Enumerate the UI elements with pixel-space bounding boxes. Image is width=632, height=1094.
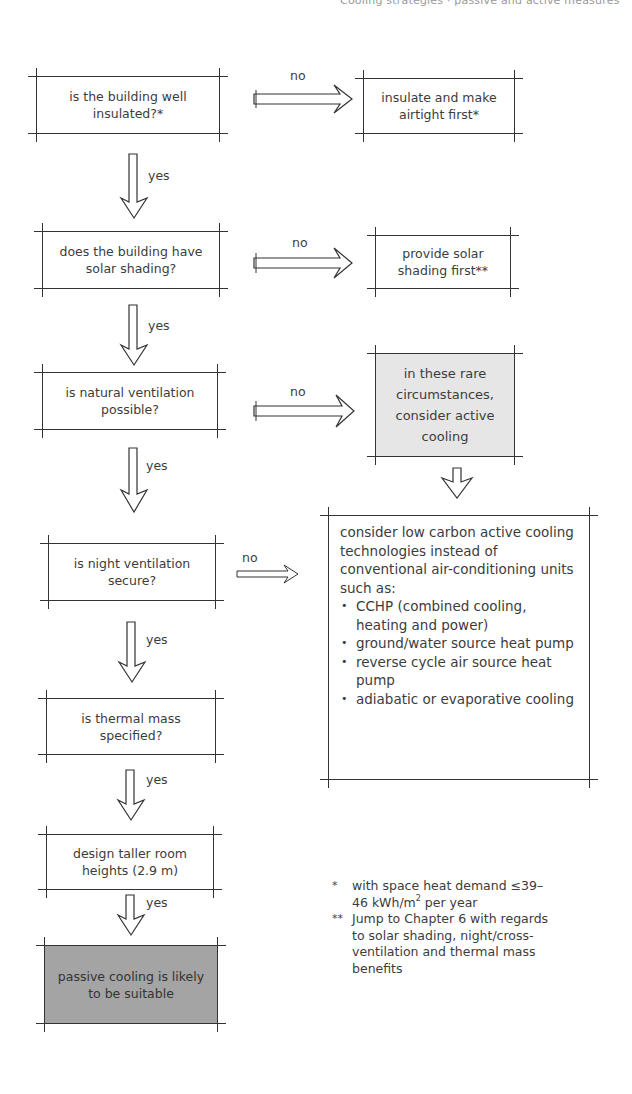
page-header-fragment: Cooling strategies · passive and active … (340, 0, 632, 6)
question-night-ventilation: is night ventilation secure? (48, 543, 216, 601)
no-arrow-right-icon (252, 247, 362, 279)
footnote-mark: * (332, 878, 338, 895)
footnote-text: Jump to Chapter 6 with regards to solar … (352, 911, 548, 976)
no-label: no (290, 68, 306, 83)
question-text: is the building well insulated?* (36, 88, 220, 122)
question-natural-ventilation: is natural ventilation possible? (42, 372, 218, 430)
action-insulate: insulate and make airtight first* (363, 78, 515, 134)
question-text: is night ventilation secure? (48, 555, 216, 589)
question-thermal-mass: is thermal mass specified? (46, 698, 216, 755)
yes-arrow-down-icon (117, 303, 151, 369)
arrow-down-icon (437, 466, 477, 502)
yes-arrow-down-icon (114, 768, 148, 824)
footnote-single-asterisk: * with space heat demand ≤39–46 kWh/m2 p… (332, 878, 552, 911)
result-text: passive cooling is likely to be suitable (44, 968, 218, 1002)
yes-arrow-down-icon (117, 152, 151, 222)
yes-label: yes (148, 168, 170, 183)
action-text: insulate and make airtight first* (363, 89, 515, 123)
low-carbon-technologies: consider low carbon active cooling techn… (328, 515, 590, 780)
action-text: provide solar shading first** (375, 245, 511, 279)
technology-item: ground/water source heat pump (340, 634, 580, 653)
action-solar-shading: provide solar shading first** (375, 235, 511, 289)
technology-item: adiabatic or evaporative cooling (340, 690, 580, 709)
yes-label: yes (146, 632, 168, 647)
step-text: design taller room heights (2.9 m) (46, 845, 214, 879)
result-passive-cooling: passive cooling is likely to be suitable (44, 945, 218, 1024)
low-carbon-content: consider low carbon active cooling techn… (328, 515, 590, 708)
low-carbon-intro: consider low carbon active cooling techn… (340, 523, 580, 597)
no-arrow-right-icon (236, 564, 306, 584)
yes-arrow-down-icon (115, 620, 149, 686)
yes-label: yes (146, 772, 168, 787)
yes-arrow-down-icon (114, 893, 148, 939)
footnote-text-tail: per year (421, 895, 478, 910)
yes-label: yes (148, 318, 170, 333)
technology-item: CCHP (combined cooling, heating and powe… (340, 597, 580, 634)
yes-label: yes (146, 895, 168, 910)
footnote-double-asterisk: ** Jump to Chapter 6 with regards to sol… (332, 911, 552, 977)
no-label: no (242, 550, 258, 565)
footnotes: * with space heat demand ≤39–46 kWh/m2 p… (332, 878, 552, 977)
action-text: in these rare circumstances, consider ac… (375, 363, 515, 447)
yes-arrow-down-icon (117, 446, 151, 516)
question-text: does the building have solar shading? (42, 243, 220, 277)
question-solar-shading: does the building have solar shading? (42, 231, 220, 289)
technology-list: CCHP (combined cooling, heating and powe… (340, 597, 580, 708)
footnote-mark: ** (332, 911, 343, 928)
question-text: is natural ventilation possible? (42, 384, 218, 418)
step-taller-rooms: design taller room heights (2.9 m) (46, 834, 214, 890)
no-arrow-right-icon (252, 394, 362, 428)
question-text: is thermal mass specified? (46, 710, 216, 744)
technology-item: reverse cycle air source heat pump (340, 653, 580, 690)
no-arrow-right-icon (252, 84, 362, 114)
action-active-cooling: in these rare circumstances, consider ac… (375, 353, 515, 457)
question-insulated: is the building well insulated?* (36, 76, 220, 134)
